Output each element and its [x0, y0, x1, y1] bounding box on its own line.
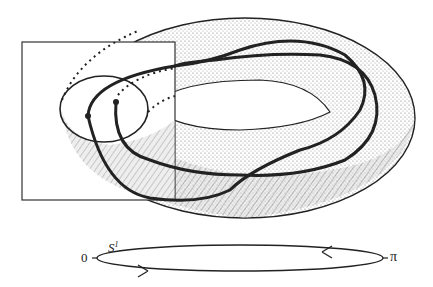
superscript: 1 [115, 240, 119, 249]
point-b [113, 99, 119, 105]
s1-circle [92, 245, 388, 277]
torus-diagram [0, 0, 433, 287]
point-a [85, 113, 91, 119]
pi-label: π [390, 249, 397, 265]
s1-label: S1 [108, 240, 119, 256]
zero-label: 0 [81, 250, 88, 266]
